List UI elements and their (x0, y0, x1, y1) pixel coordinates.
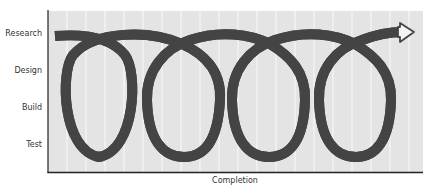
y-label-design: Design (14, 66, 42, 76)
x-axis-label: Completion (200, 176, 270, 186)
y-label-research: Research (5, 29, 42, 39)
diagram-canvas (0, 0, 435, 193)
spiral-diagram: Research Design Build Test Completion (0, 0, 435, 193)
y-label-build: Build (22, 103, 42, 113)
y-label-test: Test (26, 140, 42, 150)
